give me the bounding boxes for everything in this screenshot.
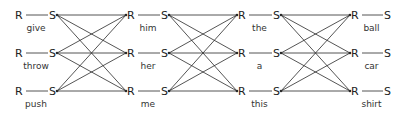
- stimulus-label: S: [273, 9, 280, 22]
- response-label: R: [127, 47, 135, 60]
- rs-node-a: RSa: [238, 47, 280, 71]
- response-label: R: [351, 47, 359, 60]
- rs-node-him: RShim: [127, 9, 168, 33]
- response-label: R: [238, 47, 246, 60]
- stimulus-label: S: [161, 47, 168, 60]
- word-label: car: [364, 61, 378, 71]
- node-columns: RSgiveRSthrowRSpushRShimRSherRSmeRStheRS…: [15, 9, 391, 109]
- junction-dot: [168, 90, 171, 93]
- rs-node-the: RSthe: [238, 9, 280, 33]
- rs-node-throw: RSthrow: [15, 47, 56, 71]
- stimulus-label: S: [161, 9, 168, 22]
- word-label: throw: [23, 61, 49, 71]
- stimulus-label: S: [273, 85, 280, 98]
- response-label: R: [238, 85, 246, 98]
- junction-dot: [280, 14, 283, 17]
- stimulus-label: S: [161, 85, 168, 98]
- response-label: R: [351, 9, 359, 22]
- stimulus-label: S: [273, 47, 280, 60]
- word-label: ball: [363, 23, 379, 33]
- stimulus-label: S: [49, 85, 56, 98]
- stimulus-label: S: [384, 85, 391, 98]
- response-label: R: [15, 9, 23, 22]
- word-label: shirt: [361, 99, 382, 109]
- word-label: this: [251, 99, 268, 109]
- word-label: give: [26, 23, 46, 33]
- stimulus-label: S: [384, 47, 391, 60]
- rs-node-this: RSthis: [238, 85, 280, 109]
- stimulus-label: S: [49, 47, 56, 60]
- junction-dot: [280, 52, 283, 55]
- word-label: a: [257, 61, 263, 71]
- rs-node-car: RScar: [351, 47, 391, 71]
- response-label: R: [127, 9, 135, 22]
- response-label: R: [15, 47, 23, 60]
- cross-links: [56, 14, 352, 93]
- stimulus-label: S: [384, 9, 391, 22]
- junction-dot: [56, 14, 59, 17]
- rs-node-push: RSpush: [15, 85, 56, 109]
- junction-dot: [280, 90, 283, 93]
- rs-node-ball: RSball: [351, 9, 391, 33]
- word-label: push: [25, 99, 47, 109]
- word-label: the: [252, 23, 267, 33]
- stimulus-label: S: [49, 9, 56, 22]
- junction-dot: [56, 52, 59, 55]
- rs-node-give: RSgive: [15, 9, 56, 33]
- word-label: me: [141, 99, 156, 109]
- rs-chain-diagram: RSgiveRSthrowRSpushRShimRSherRSmeRStheRS…: [0, 0, 407, 117]
- junction-dot: [168, 14, 171, 17]
- response-label: R: [351, 85, 359, 98]
- word-label: her: [141, 61, 156, 71]
- rs-node-me: RSme: [127, 85, 168, 109]
- response-label: R: [127, 85, 135, 98]
- word-label: him: [140, 23, 157, 33]
- rs-node-her: RSher: [127, 47, 168, 71]
- response-label: R: [15, 85, 23, 98]
- response-label: R: [238, 9, 246, 22]
- rs-node-shirt: RSshirt: [351, 85, 391, 109]
- junction-dot: [56, 90, 59, 93]
- junction-dot: [168, 52, 171, 55]
